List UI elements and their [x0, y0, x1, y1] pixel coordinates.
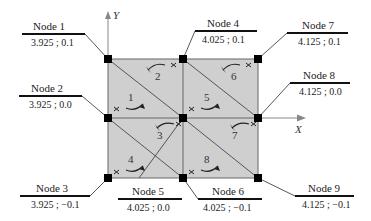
x-axis-arrow-icon: [297, 115, 306, 122]
node-9-coord: 4.125 ; −0.1: [302, 199, 350, 210]
node-7-coord: 4.125 ; 0.1: [298, 36, 341, 47]
node-5-marker: [179, 114, 187, 122]
element-8-label: 8: [204, 153, 210, 165]
node-2-coord: 3.925 ; 0.0: [29, 99, 72, 110]
y-axis-label: Y: [113, 9, 119, 21]
x-axis-label: X: [295, 123, 302, 135]
node-7-title: Node 7: [302, 19, 334, 31]
node-1-coord: 3.925 ; 0.1: [31, 37, 74, 48]
node-1-title: Node 1: [33, 20, 65, 32]
fem-mesh-diagram: Y X 1 2 3 4 5 6 7 8 Node 1 3.925 ; 0.1 N…: [0, 0, 371, 221]
node-5-title: Node 5: [132, 185, 164, 197]
element-2-label: 2: [155, 70, 161, 82]
node-8-marker: [254, 114, 262, 122]
element-4-label: 4: [128, 153, 134, 165]
element-1-label: 1: [128, 91, 134, 103]
node-9-title: Node 9: [308, 182, 340, 194]
node-8-title: Node 8: [303, 69, 335, 81]
node-7-marker: [254, 55, 262, 63]
node-3-coord: 3.925 ; −0.1: [31, 199, 79, 210]
node-4-marker: [179, 55, 187, 63]
node-1-marker: [104, 55, 112, 63]
node-2-marker: [104, 114, 112, 122]
node-3-marker: [104, 174, 112, 182]
node-2-title: Node 2: [31, 82, 63, 94]
node-3-title: Node 3: [36, 182, 68, 194]
node-6-marker: [179, 174, 187, 182]
node-8-coord: 4.125 ; 0.0: [299, 86, 342, 97]
element-5-label: 5: [204, 91, 210, 103]
node-5-coord: 4.025 ; 0.0: [127, 202, 170, 213]
node-9-marker: [254, 174, 262, 182]
node-4-title: Node 4: [207, 17, 239, 29]
node-6-coord: 4.025 ; −0.1: [203, 202, 251, 213]
element-7-label: 7: [232, 129, 238, 141]
element-6-label: 6: [231, 70, 237, 82]
node-6-title: Node 6: [212, 185, 244, 197]
y-axis-arrow-icon: [105, 11, 111, 19]
element-3-label: 3: [157, 129, 163, 141]
node-4-coord: 4.025 ; 0.1: [202, 34, 245, 45]
